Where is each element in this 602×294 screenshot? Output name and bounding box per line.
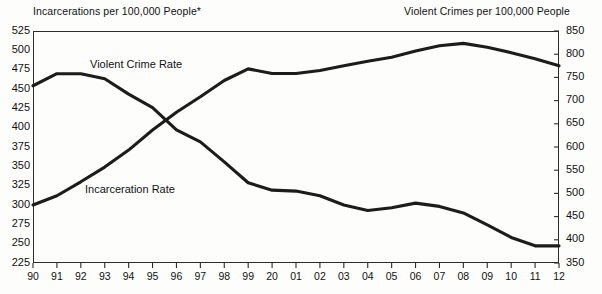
x-axis-tick-96: 96 [164,270,188,282]
x-axis-tick-10: 10 [499,270,523,282]
left-axis-tick-350: 350 [0,159,30,171]
x-axis-tick-11: 11 [523,270,547,282]
right-axis-title: Violent Crimes per 100,000 People [404,5,570,17]
right-axis-tick-650: 650 [566,116,600,128]
x-axis-tick-08: 08 [451,270,475,282]
x-axis-tick-09: 09 [475,270,499,282]
right-axis-tick-450: 450 [566,209,600,221]
x-axis-tick-91: 91 [45,270,69,282]
x-axis-tick-20: 20 [260,270,284,282]
x-axis-tick-93: 93 [93,270,117,282]
x-axis-tick-02: 02 [308,270,332,282]
left-axis-tick-300: 300 [0,198,30,210]
x-axis-tick-03: 03 [332,270,356,282]
x-axis-tick-95: 95 [141,270,165,282]
right-axis-tick-500: 500 [566,186,600,198]
right-axis-tick-850: 850 [566,24,600,36]
left-axis-tick-400: 400 [0,120,30,132]
left-axis-tick-450: 450 [0,82,30,94]
x-axis-tick-06: 06 [404,270,428,282]
x-axis-tick-05: 05 [380,270,404,282]
right-axis-tick-700: 700 [566,93,600,105]
left-axis-tick-375: 375 [0,140,30,152]
left-axis-tick-425: 425 [0,101,30,113]
left-axis-tick-225: 225 [0,256,30,268]
x-axis-tick-01: 01 [284,270,308,282]
right-axis-tick-400: 400 [566,232,600,244]
x-axis-tick-92: 92 [69,270,93,282]
x-axis-tick-04: 04 [356,270,380,282]
left-axis-tick-325: 325 [0,178,30,190]
x-axis-tick-90: 90 [21,270,45,282]
right-axis-tick-750: 750 [566,70,600,82]
left-axis-tick-275: 275 [0,217,30,229]
right-axis-tick-800: 800 [566,47,600,59]
left-axis-tick-475: 475 [0,62,30,74]
series-label-violent-crime-rate: Violent Crime Rate [90,58,182,70]
right-axis-tick-600: 600 [566,140,600,152]
x-axis-tick-12: 12 [547,270,571,282]
right-axis-tick-350: 350 [566,256,600,268]
x-axis-tick-07: 07 [427,270,451,282]
chart-container: Incarcerations per 100,000 People* Viole… [0,0,602,294]
x-axis-tick-99: 99 [236,270,260,282]
left-axis-tick-525: 525 [0,24,30,36]
x-axis-tick-98: 98 [212,270,236,282]
left-axis-title: Incarcerations per 100,000 People* [33,5,201,17]
right-axis-tick-550: 550 [566,163,600,175]
x-axis-tick-97: 97 [188,270,212,282]
x-axis-tick-94: 94 [117,270,141,282]
left-axis-tick-250: 250 [0,236,30,248]
series-label-incarceration-rate: Incarceration Rate [85,183,175,195]
left-axis-tick-500: 500 [0,43,30,55]
